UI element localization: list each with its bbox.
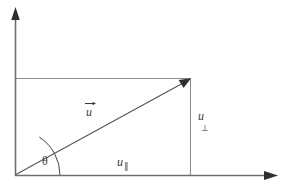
overarrow-icon — [85, 101, 96, 106]
u-parallel-base: u — [117, 155, 123, 169]
vector-decomposition-figure: u θ u∥ u⊥ — [0, 0, 286, 188]
u-perp-base: u — [198, 109, 204, 123]
u-perp-subscript: ⊥ — [201, 124, 209, 133]
vector-u-label: u — [86, 101, 92, 118]
theta-label: θ — [42, 155, 48, 167]
vector-u-label-text: u — [86, 105, 92, 119]
u-perpendicular-label: u⊥ — [198, 110, 206, 131]
u-parallel-label: u∥ — [117, 156, 128, 168]
u-parallel-subscript: ∥ — [124, 161, 129, 171]
